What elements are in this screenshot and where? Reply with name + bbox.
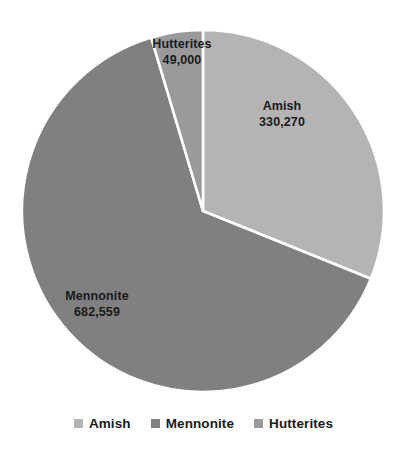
legend-label-hutterites: Hutterites: [269, 416, 333, 431]
legend-swatch-amish: [74, 419, 83, 428]
legend-item-mennonite[interactable]: Mennonite: [151, 416, 234, 431]
pie-plot-area: [0, 0, 407, 405]
legend-item-hutterites[interactable]: Hutterites: [254, 416, 333, 431]
chart-legend: Amish Mennonite Hutterites: [0, 410, 407, 436]
pie-svg: [0, 0, 407, 405]
legend-swatch-mennonite: [151, 419, 160, 428]
legend-label-amish: Amish: [89, 416, 131, 431]
legend-label-mennonite: Mennonite: [166, 416, 234, 431]
legend-item-amish[interactable]: Amish: [74, 416, 131, 431]
pie-slices: [22, 30, 384, 392]
pie-chart: Amish 330,270 Mennonite 682,559 Hutterit…: [0, 0, 407, 455]
legend-swatch-hutterites: [254, 419, 263, 428]
